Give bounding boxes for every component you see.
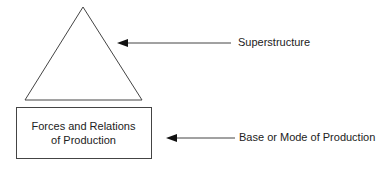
base-arrow — [166, 134, 235, 142]
arrowhead-icon — [117, 39, 128, 47]
superstructure-label: Superstructure — [238, 36, 310, 49]
superstructure-arrow — [117, 39, 231, 47]
box-text-line2: of Production — [51, 133, 116, 147]
superstructure-triangle — [25, 7, 142, 100]
base-box-text: Forces and Relations of Production — [16, 107, 151, 158]
box-text-line1: Forces and Relations — [32, 119, 136, 133]
arrowhead-icon — [166, 134, 177, 142]
base-label: Base or Mode of Production — [239, 131, 375, 144]
